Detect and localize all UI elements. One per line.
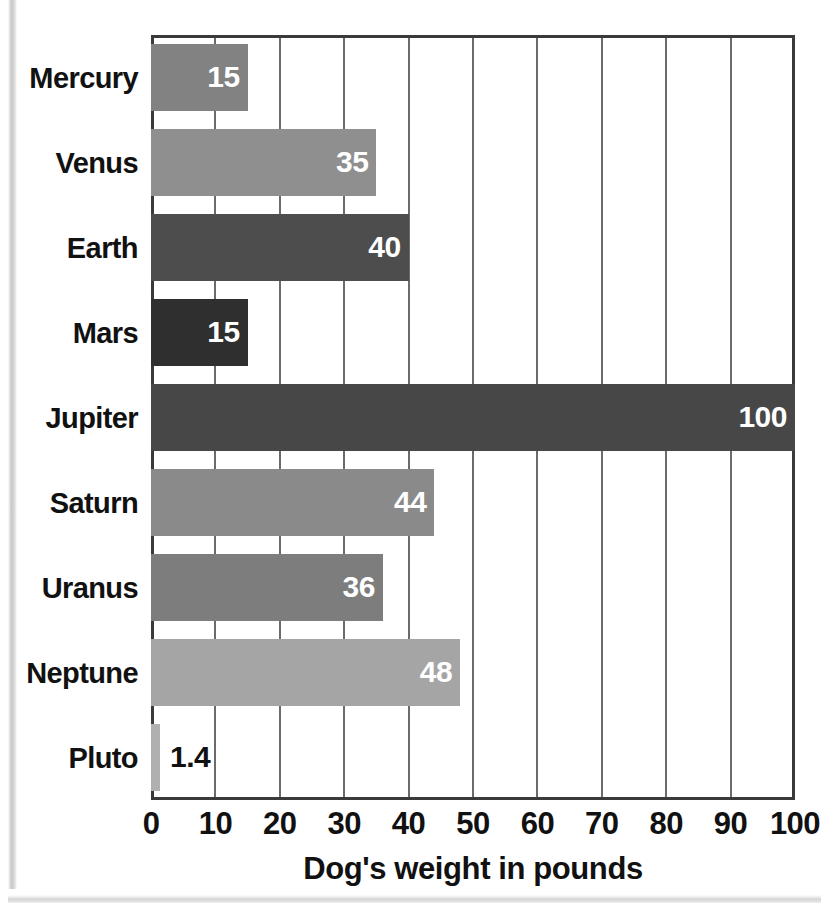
bar-chart: 153540151004436481.4 MercuryVenusEarthMa… [0,0,829,911]
x-tick-100: 100 [770,806,820,842]
bar-row: 1.4 [151,724,795,791]
bar-row: 35 [151,129,795,196]
bar-saturn: 44 [151,469,434,536]
x-tick-50: 50 [456,806,489,842]
bar-row: 40 [151,214,795,281]
scanned-page-frame: 153540151004436481.4 MercuryVenusEarthMa… [0,0,829,911]
bar-venus: 35 [151,129,376,196]
category-label-uranus: Uranus [42,571,138,604]
bar-row: 15 [151,44,795,111]
bar-mercury: 15 [151,44,248,111]
bar-row: 36 [151,554,795,621]
bar-mars: 15 [151,299,248,366]
bar-value-label: 35 [336,145,368,179]
x-tick-20: 20 [263,806,296,842]
bar-earth: 40 [151,214,409,281]
category-label-pluto: Pluto [69,741,139,774]
bar-value-label: 15 [207,60,239,94]
bar-jupiter: 100 [151,384,795,451]
x-axis-tick-labels: 0102030405060708090100 [151,806,795,850]
bar-pluto [151,724,160,791]
bar-row: 48 [151,639,795,706]
bar-value-label: 48 [420,655,452,689]
bar-neptune: 48 [151,639,460,706]
category-label-jupiter: Jupiter [46,401,139,434]
category-label-earth: Earth [67,231,138,264]
bar-value-label: 44 [394,485,426,519]
category-label-mercury: Mercury [29,61,138,94]
x-tick-80: 80 [649,806,682,842]
x-tick-90: 90 [714,806,747,842]
bar-row: 15 [151,299,795,366]
bar-value-label: 36 [342,570,374,604]
category-label-venus: Venus [56,146,138,179]
category-label-saturn: Saturn [50,486,138,519]
x-tick-10: 10 [199,806,232,842]
bar-value-label: 40 [368,230,400,264]
bars-layer: 153540151004436481.4 [151,35,795,800]
x-tick-70: 70 [585,806,618,842]
x-tick-30: 30 [327,806,360,842]
x-tick-0: 0 [143,806,160,842]
bar-value-label: 15 [207,315,239,349]
bar-row: 44 [151,469,795,536]
category-label-neptune: Neptune [26,656,138,689]
x-axis-title: Dog's weight in pounds [151,851,795,887]
category-labels: MercuryVenusEarthMarsJupiterSaturnUranus… [0,35,145,800]
category-label-mars: Mars [73,316,138,349]
x-tick-40: 40 [392,806,425,842]
bar-row: 100 [151,384,795,451]
bar-value-label: 100 [738,400,787,434]
bar-value-label: 1.4 [170,740,210,774]
x-tick-60: 60 [521,806,554,842]
bar-uranus: 36 [151,554,383,621]
